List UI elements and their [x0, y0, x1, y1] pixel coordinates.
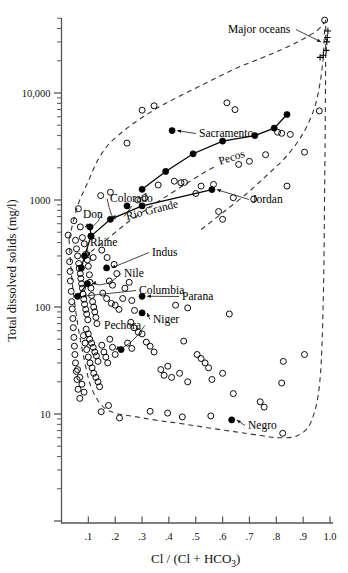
x-tick-label: .1	[84, 531, 92, 542]
data-point-filled	[190, 151, 196, 157]
data-point-open	[171, 178, 177, 184]
annotation-indus: Indus	[112, 246, 178, 268]
annotation-label: Indus	[152, 246, 178, 258]
data-point-open	[224, 100, 230, 106]
data-point-open	[82, 340, 88, 346]
data-point-open	[110, 344, 116, 350]
data-point-open	[104, 255, 110, 261]
data-point-open	[107, 336, 113, 342]
annotation-label: Pecos	[217, 147, 247, 167]
data-point-open	[126, 279, 132, 285]
data-point-open	[69, 306, 75, 312]
series-group	[65, 17, 327, 436]
data-point-open	[99, 247, 105, 253]
data-point-open	[93, 353, 99, 359]
data-point-open	[116, 306, 122, 312]
annotation-don: Don	[83, 208, 103, 228]
annotation-label: Niger	[153, 313, 179, 326]
data-point-filled	[82, 253, 88, 259]
data-point-open	[69, 299, 75, 305]
data-point-open	[77, 395, 83, 401]
data-point-open	[93, 314, 99, 320]
envelope-upper-curve	[69, 22, 325, 239]
x-tick-label: 1.0	[323, 531, 336, 542]
annotation-arrowhead	[237, 420, 241, 424]
data-point-open	[179, 414, 185, 420]
data-point-open	[75, 367, 81, 373]
annotation-negro: Negro	[237, 419, 277, 432]
annotation-label: Parana	[182, 290, 213, 302]
data-point-open	[112, 352, 118, 358]
annotation-label: Pechora	[104, 319, 141, 331]
data-point-open	[110, 282, 116, 288]
data-point-open	[103, 354, 109, 360]
data-point-open	[71, 334, 77, 340]
data-point-open	[74, 246, 80, 252]
x-tick-label: .3	[138, 531, 146, 542]
annotation-pecos: Pecos	[217, 147, 247, 167]
data-point-open	[185, 305, 191, 311]
data-point-filled	[229, 417, 235, 423]
data-point-open	[220, 216, 226, 222]
data-point-open	[132, 307, 138, 313]
x-tick-label: .5	[192, 531, 200, 542]
y-tick-label: 1000	[30, 195, 51, 206]
data-point-open	[66, 249, 72, 255]
data-point-open	[105, 360, 111, 366]
data-point-open	[100, 290, 106, 296]
data-point-open	[98, 409, 104, 415]
y-tick-label: 10	[40, 409, 51, 420]
data-point-open	[165, 363, 171, 369]
data-point-open	[185, 379, 191, 385]
data-point-filled	[169, 128, 175, 134]
data-point-open	[151, 349, 157, 355]
data-point-open	[95, 358, 101, 364]
data-point-open	[155, 182, 161, 188]
data-point-open	[70, 325, 76, 331]
data-point-open	[129, 345, 135, 351]
x-axis-ticks: .1.2.3.4.5.6.7.8.91.0	[84, 517, 336, 543]
data-point-open	[208, 413, 214, 419]
axes	[62, 18, 334, 523]
data-point-open	[81, 241, 87, 247]
data-point-open	[181, 338, 187, 344]
data-point-open	[67, 278, 73, 284]
data-point-open	[139, 107, 145, 113]
data-point-filled	[139, 310, 145, 316]
data-point-open	[99, 342, 105, 348]
data-point-open	[169, 374, 175, 380]
y-axis-ticks	[54, 18, 62, 521]
data-point-open	[232, 107, 238, 113]
data-point-open	[236, 161, 242, 167]
data-point-filled	[284, 111, 290, 117]
annotation-columbia: Columbia	[83, 284, 185, 298]
data-point-open	[75, 253, 81, 259]
data-points	[65, 17, 331, 436]
data-point-open	[85, 354, 91, 360]
y-tick-label: 10,000	[22, 88, 51, 99]
data-point-open	[129, 298, 135, 304]
x-tick-label: .8	[272, 531, 280, 542]
data-point-open	[70, 316, 76, 322]
annotation-label: Negro	[248, 419, 277, 432]
annotation-leader	[217, 190, 249, 200]
data-point-open	[81, 389, 87, 395]
x-tick-label: .6	[219, 531, 227, 542]
data-point-open	[316, 108, 322, 114]
data-point-open	[106, 403, 112, 409]
annotation-label: Nile	[124, 267, 144, 279]
data-point-open	[71, 343, 77, 349]
data-point-filled	[104, 265, 110, 271]
data-point-open	[182, 179, 188, 185]
x-tick-label: .2	[111, 531, 119, 542]
data-point-open	[72, 352, 78, 358]
annotation-label: Rhine	[90, 236, 117, 248]
annotation-sacramento: Sacramento	[177, 127, 253, 139]
data-point-open	[226, 311, 232, 317]
y-axis-tick-labels: 10100100010,000	[22, 88, 51, 420]
data-point-open	[280, 430, 286, 436]
data-point-open	[85, 317, 91, 323]
data-point-open	[90, 255, 96, 261]
data-point-open	[198, 183, 204, 189]
annotation-jordan: Jordan	[217, 189, 283, 205]
